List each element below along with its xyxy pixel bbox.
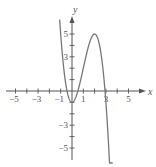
y-axis-label: y: [72, 4, 78, 15]
y-tick-label: 5: [64, 29, 69, 39]
x-axis-label: x: [147, 86, 153, 97]
axes: [6, 16, 146, 160]
y-tick-label: 3: [64, 52, 69, 62]
y-axis-arrow-icon: [70, 16, 75, 23]
x-tick-label: −3: [32, 94, 42, 104]
x-tick-label: 5: [126, 94, 131, 104]
x-tick-label: −5: [9, 94, 19, 104]
function-graph: −5−3−113553−3−5 x y: [0, 0, 156, 167]
x-axis-arrow-icon: [139, 89, 146, 94]
y-tick-label: −3: [58, 120, 68, 130]
y-tick-label: −5: [58, 143, 68, 153]
x-tick-label: 1: [81, 94, 86, 104]
x-tick-label: −1: [54, 94, 64, 104]
